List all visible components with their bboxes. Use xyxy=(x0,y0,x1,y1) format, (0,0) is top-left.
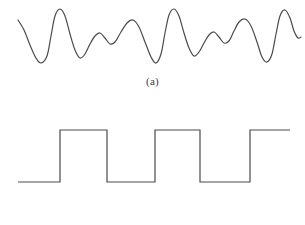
panel-digital: (b) xyxy=(0,112,305,225)
analog-signal-path xyxy=(18,9,301,63)
analog-waveform-plot xyxy=(0,0,305,76)
caption-a: (a) xyxy=(0,76,305,87)
figure-container: (a) (b) xyxy=(0,0,305,225)
panel-analog: (a) xyxy=(0,0,305,112)
digital-signal-path xyxy=(18,130,290,182)
digital-waveform-plot xyxy=(0,112,305,212)
